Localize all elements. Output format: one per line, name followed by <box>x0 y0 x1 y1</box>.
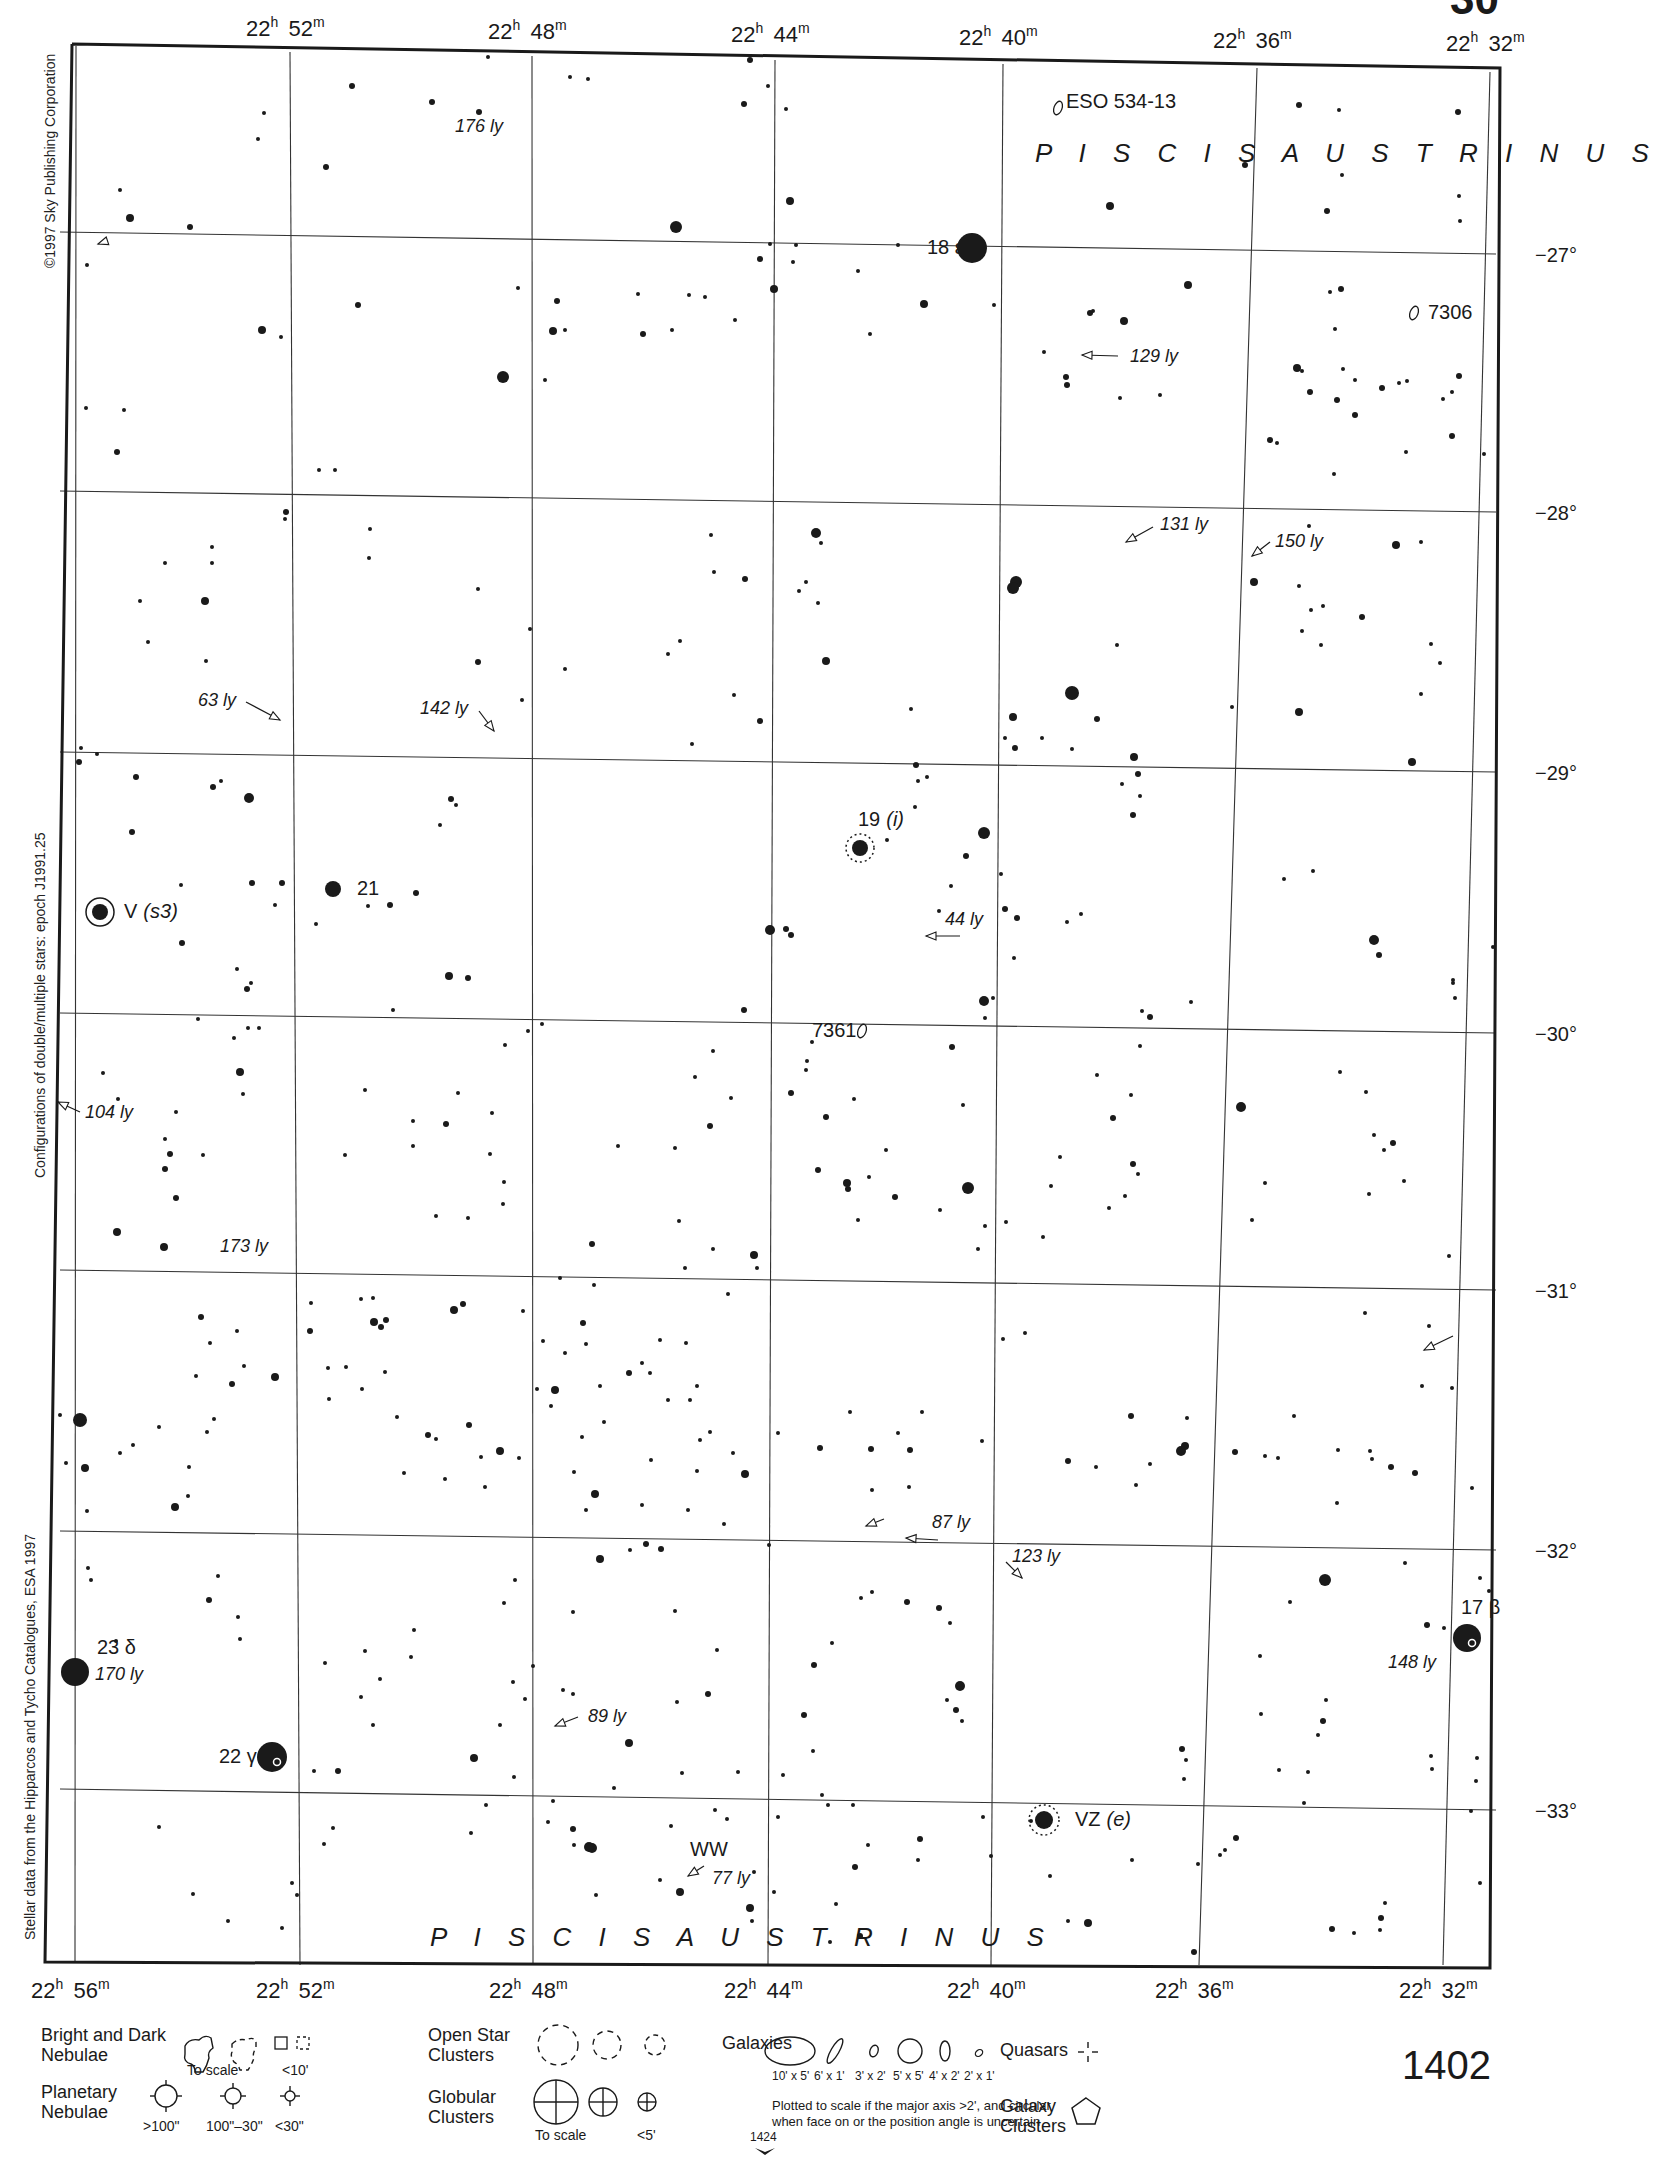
star <box>589 1241 595 1247</box>
ra-grid-line <box>768 60 775 1965</box>
star <box>526 1029 530 1033</box>
legend-open-clusters-title: Open Star Clusters <box>428 2025 510 2065</box>
star <box>1185 1416 1189 1420</box>
star <box>1412 1470 1418 1476</box>
star <box>558 1276 562 1280</box>
constellation-name-bottom: P I S C I S A U S T R I N U S <box>430 1922 1054 1953</box>
star <box>658 1546 664 1552</box>
copyright-text: ©1997 Sky Publishing Corporation <box>42 54 58 268</box>
star <box>1424 1622 1430 1628</box>
arrowhead-icon <box>269 712 280 720</box>
star <box>133 774 139 780</box>
star <box>670 328 674 332</box>
legend-globular-small: <5' <box>637 2127 656 2143</box>
star <box>1079 912 1083 916</box>
star <box>757 256 763 262</box>
star <box>1107 1206 1111 1210</box>
star <box>501 1202 505 1206</box>
star <box>1338 1070 1342 1074</box>
legend-galaxy-size-3: 5' x 5' <box>893 2069 924 2083</box>
star <box>776 1431 780 1435</box>
star <box>640 331 646 337</box>
star <box>770 285 778 293</box>
star <box>312 1769 316 1773</box>
star <box>640 1361 644 1365</box>
star <box>1263 1181 1267 1185</box>
star <box>58 1413 62 1417</box>
dec-grid-line <box>60 232 1496 254</box>
galaxy-cluster-icon <box>1072 2098 1100 2124</box>
star-icon <box>92 904 108 920</box>
star <box>666 652 670 656</box>
star <box>715 1648 719 1652</box>
star <box>1447 1254 1451 1258</box>
star <box>949 1044 955 1050</box>
star <box>1307 389 1313 395</box>
star <box>241 1092 245 1096</box>
star <box>309 1301 313 1305</box>
star <box>592 1283 596 1287</box>
arrowhead-icon <box>1252 547 1262 556</box>
star <box>314 922 318 926</box>
star <box>210 545 214 549</box>
star <box>244 986 250 992</box>
star <box>852 1097 856 1101</box>
star <box>363 1088 367 1092</box>
ra-tick-label: 22h 56m <box>31 1976 110 2003</box>
star <box>1007 582 1019 594</box>
star <box>767 1543 771 1547</box>
star <box>1120 317 1128 325</box>
star <box>712 570 716 574</box>
star <box>820 1793 824 1797</box>
galaxy-2x1-icon <box>974 2048 984 2058</box>
star <box>823 1114 829 1120</box>
star <box>76 759 82 765</box>
star <box>1130 1161 1136 1167</box>
star <box>466 1422 472 1428</box>
star <box>187 224 193 230</box>
star <box>81 1464 89 1472</box>
distance-labels: 176 ly129 ly131 ly150 ly63 ly142 ly44 ly… <box>85 116 1437 1888</box>
arrowhead-icon <box>906 1535 916 1543</box>
star <box>708 1430 712 1434</box>
star <box>907 1447 913 1453</box>
star <box>1324 1698 1328 1702</box>
star <box>1307 524 1311 528</box>
star <box>483 1485 487 1489</box>
star <box>1115 643 1119 647</box>
star <box>1320 1718 1326 1724</box>
star <box>584 1342 588 1346</box>
star <box>95 752 99 756</box>
star <box>535 1387 539 1391</box>
star <box>786 197 794 205</box>
star <box>1482 452 1486 456</box>
legend-quasars-title: Quasars <box>1000 2040 1068 2060</box>
star <box>173 1195 179 1201</box>
object-label: WW <box>690 1838 728 1860</box>
star <box>626 1370 632 1376</box>
star-icon <box>325 881 341 897</box>
ra-grid-line <box>1199 68 1257 1965</box>
star <box>126 214 134 222</box>
star <box>326 1366 330 1370</box>
star <box>456 1091 460 1095</box>
star <box>811 1662 817 1668</box>
star <box>563 1351 567 1355</box>
star <box>196 1017 200 1021</box>
star <box>546 1820 550 1824</box>
ra-tick-label: 22h 52m <box>256 1976 335 2003</box>
arrowhead-icon <box>1424 1342 1435 1350</box>
star <box>1456 373 1462 379</box>
axis-labels: −27°−28°−29°−30°−31°−32°−33°22h 52m22h 4… <box>31 14 1577 2003</box>
star <box>1130 753 1138 761</box>
star <box>1066 1919 1070 1923</box>
star <box>765 925 775 935</box>
star <box>804 580 808 584</box>
star <box>171 1503 179 1511</box>
star <box>1297 584 1301 588</box>
star <box>757 718 763 724</box>
star <box>845 1186 851 1192</box>
ra-tick-label: 22h 44m <box>731 20 810 47</box>
star <box>949 884 953 888</box>
arrowhead-icon <box>1126 534 1137 542</box>
